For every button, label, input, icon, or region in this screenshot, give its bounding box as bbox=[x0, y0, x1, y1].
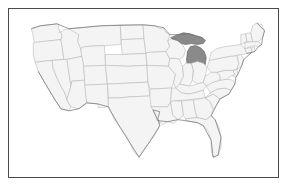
state-nm[interactable] bbox=[85, 84, 109, 108]
us-choropleth-map bbox=[9, 9, 278, 177]
state-nd[interactable] bbox=[120, 25, 144, 40]
state-ok[interactable] bbox=[107, 82, 149, 98]
states-layer bbox=[31, 23, 264, 157]
state-wy[interactable] bbox=[81, 46, 106, 67]
state-ks[interactable] bbox=[105, 65, 147, 84]
state-co[interactable] bbox=[84, 65, 108, 85]
state-ne[interactable] bbox=[105, 53, 147, 66]
state-mn[interactable] bbox=[143, 25, 170, 54]
state-ia[interactable] bbox=[146, 51, 170, 66]
state-or[interactable] bbox=[33, 40, 64, 63]
state-ar[interactable] bbox=[150, 88, 172, 107]
state-sd[interactable] bbox=[121, 39, 146, 55]
map-figure-frame bbox=[8, 8, 279, 178]
